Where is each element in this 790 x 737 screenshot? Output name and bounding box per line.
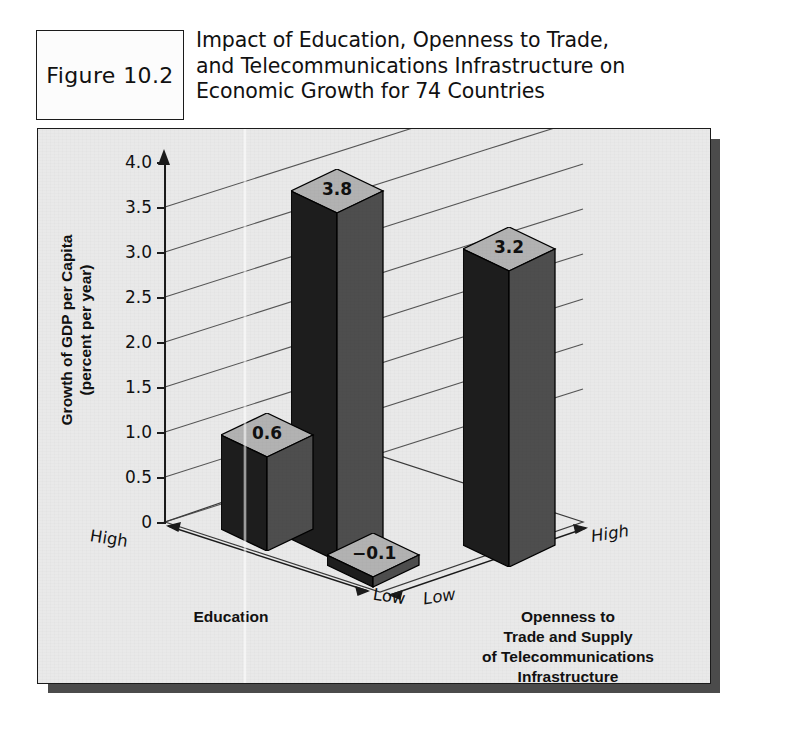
y-tick-2: [157, 432, 166, 434]
y-tick-5: [157, 297, 166, 299]
y-tick-label-8: 4.0: [98, 152, 152, 172]
education-axis-title: Education: [146, 607, 316, 627]
y-tick-label-7: 3.5: [98, 197, 152, 217]
y-axis-title: Growth of GDP per Capita (percent per ye…: [57, 160, 95, 500]
openness-axis-title-line-3: of Telecommunications: [438, 647, 698, 667]
chart-stage: 0 0.5 1.0 1.5 2.0 2.5 3.0 3.5: [38, 129, 710, 683]
y-tick-1: [157, 477, 166, 479]
openness-axis-title-line-2: Trade and Supply: [438, 627, 698, 647]
y-tick-7: [157, 207, 166, 209]
y-tick-8: [157, 162, 166, 164]
bar-value-label: 3.8: [322, 179, 352, 199]
bar-side-face: [509, 249, 555, 567]
figure-title-line-2: and Telecommunications Infrastructure on: [196, 54, 774, 80]
y-tick-3: [157, 387, 166, 389]
y-tick-0: [157, 522, 166, 524]
figure-title-line-1: Impact of Education, Openness to Trade,: [196, 28, 774, 54]
bar-front-face: [463, 249, 509, 567]
y-axis-title-line-2: (percent per year): [76, 160, 95, 500]
y-tick-label-3: 1.5: [98, 377, 152, 397]
y-tick-label-6: 3.0: [98, 242, 152, 262]
figure-title: Impact of Education, Openness to Trade, …: [196, 28, 774, 105]
figure-root: Figure 10.2 Impact of Education, Opennes…: [0, 0, 790, 737]
figure-title-line-3: Economic Growth for 74 Countries: [196, 79, 774, 105]
y-tick-label-1: 0.5: [98, 467, 152, 487]
y-tick-label-4: 2.0: [98, 332, 152, 352]
y-tick-4: [157, 342, 166, 344]
y-axis-title-line-1: Growth of GDP per Capita: [57, 160, 76, 500]
openness-axis-title: Openness to Trade and Supply of Telecomm…: [438, 607, 698, 684]
bar-value-label: 3.2: [494, 237, 524, 257]
bar-value-label: 0.6: [252, 423, 282, 443]
figure-number-label: Figure 10.2: [46, 63, 174, 88]
openness-axis-title-line-1: Openness to: [438, 607, 698, 627]
figure-number-box: Figure 10.2: [36, 30, 184, 120]
y-tick-label-5: 2.5: [98, 287, 152, 307]
y-tick-label-2: 1.0: [98, 422, 152, 442]
chart-panel: 0 0.5 1.0 1.5 2.0 2.5 3.0 3.5: [37, 128, 711, 684]
bar-value-label: −0.1: [352, 543, 396, 563]
openness-axis-title-line-4: Infrastructure: [438, 667, 698, 684]
education-axis-title-line-1: Education: [146, 607, 316, 627]
y-tick-6: [157, 252, 166, 254]
